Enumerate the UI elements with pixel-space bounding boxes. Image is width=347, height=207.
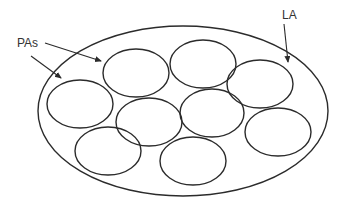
pa-ellipse: [170, 40, 236, 88]
pa-ellipse: [116, 98, 182, 146]
pa-ellipse: [47, 80, 113, 128]
pa-ellipse: [103, 49, 169, 97]
la-outer-ellipse: [38, 26, 328, 196]
pas-arrow-icon: [31, 56, 61, 78]
la-arrow-icon: [284, 24, 288, 62]
pa-ellipse: [227, 60, 293, 108]
pa-ellipse: [245, 108, 311, 156]
la-label: LA: [282, 8, 297, 22]
pa-ellipse: [75, 127, 141, 175]
pa-ellipses: [47, 40, 311, 185]
pas-arrow-icon: [45, 43, 101, 61]
pa-ellipse: [180, 89, 244, 137]
pas-label: PAs: [17, 36, 38, 50]
pa-ellipse: [160, 137, 226, 185]
pa-la-diagram: PAs LA: [0, 0, 347, 207]
